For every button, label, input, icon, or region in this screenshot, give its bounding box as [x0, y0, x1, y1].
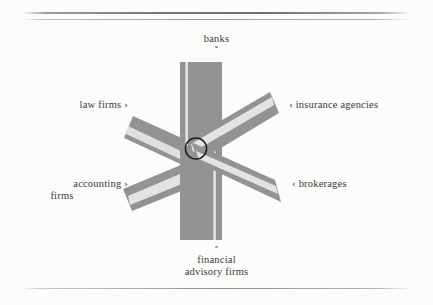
spoke-label-financial-advisory-firms-line1: financial: [0, 254, 433, 266]
chevron-left-icon: ‹: [289, 100, 293, 110]
spoke-label-insurance-agencies: ‹ insurance agencies: [289, 99, 378, 111]
spoke-label-banks: banks ˅: [0, 33, 433, 54]
spoke-label-law-firms: law firms ›: [10, 99, 128, 111]
spoke-label-brokerages: ‹ brokerages: [292, 178, 347, 190]
chevron-left-icon: ‹: [292, 179, 296, 189]
spoke-label-accounting-firms-line2: firms: [6, 190, 128, 202]
chevron-up-icon: ˄: [0, 247, 433, 254]
spoke-label-financial-advisory-firms: ˄ financial advisory firms: [0, 247, 433, 278]
spoke-label-accounting-firms: accounting › firms: [6, 178, 128, 202]
spoke-label-brokerages-text: brokerages: [299, 178, 347, 189]
figure-page: banks ˅ law firms › accounting › firms ‹…: [0, 0, 433, 305]
spoke-label-banks-text: banks: [0, 33, 433, 45]
chevron-down-icon: ˅: [0, 46, 433, 54]
spoke-label-insurance-agencies-text: insurance agencies: [296, 99, 379, 110]
chevron-right-icon: ›: [124, 100, 128, 110]
spoke-label-law-firms-text: law firms: [80, 99, 122, 110]
spoke-label-financial-advisory-firms-line2: advisory firms: [0, 266, 433, 278]
spoke-label-accounting-firms-line1: accounting: [73, 178, 121, 189]
chevron-right-icon: ›: [124, 179, 128, 189]
